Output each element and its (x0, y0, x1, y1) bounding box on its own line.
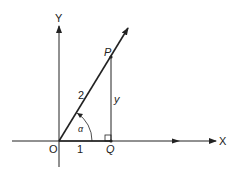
point-p-label: P (104, 46, 112, 58)
op-length-label: 2 (78, 89, 84, 101)
x-axis-label: X (219, 135, 227, 147)
y-axis-label: Y (55, 12, 63, 24)
angle-label: α (78, 124, 84, 134)
point-q-label: Q (106, 143, 115, 155)
x-axis-mid-arrow-icon (172, 139, 180, 144)
oq-length-label: 1 (77, 143, 83, 155)
right-triangle-diagram: Y X O P Q 2 1 y α (0, 0, 235, 171)
ray-op (59, 28, 128, 141)
pq-length-label: y (113, 93, 121, 105)
origin-label: O (49, 143, 58, 155)
